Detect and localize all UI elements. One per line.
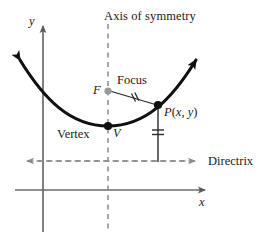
focus-point-label: F	[93, 84, 101, 97]
axis-of-symmetry-label: Axis of symmetry	[104, 10, 196, 23]
vertex-point-label: V	[113, 127, 121, 140]
focal-radius-segment	[110, 91, 157, 105]
figure-canvas	[0, 0, 273, 236]
directrix-label: Directrix	[208, 155, 253, 168]
point-p-close: )	[193, 105, 197, 119]
vertex-point-dot	[104, 122, 112, 130]
focus-label: Focus	[117, 74, 147, 87]
p-point-dot	[154, 101, 162, 109]
directrix-distance-segment	[152, 105, 164, 162]
y-axis-label: y	[29, 15, 35, 28]
vertex-label: Vertex	[57, 128, 90, 141]
parabola-figure: Axis of symmetry y x F Focus Vertex V Di…	[0, 0, 273, 236]
focus-point-dot	[104, 87, 111, 94]
x-axis-label: x	[199, 196, 205, 209]
point-p-label: P(x, y)	[164, 106, 197, 119]
point-p-name: P	[164, 105, 172, 119]
